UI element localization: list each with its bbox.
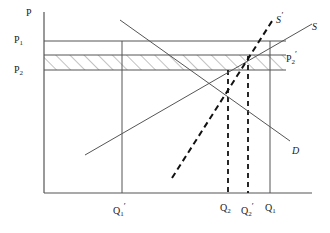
supply-demand-figure: P P1P2P2′ Q1′Q2Q2′Q1 S′SD (0, 0, 330, 233)
curves-group (85, 18, 312, 178)
subscript: 1 (20, 39, 24, 47)
quantity-label-q2: Q2 (220, 203, 231, 213)
prime-mark: ′ (281, 10, 283, 20)
quantity-label-q2-prime: Q2′ (241, 203, 254, 216)
curve-D (120, 20, 290, 141)
prime-mark: ′ (252, 201, 254, 211)
diagram-canvas (0, 0, 330, 233)
curve-S-prime (172, 18, 274, 178)
price-label-p2: P2 (14, 65, 23, 75)
subscript: 2 (248, 210, 252, 218)
quantity-label-q1-prime: Q1′ (113, 203, 126, 216)
subscript: 1 (120, 210, 124, 218)
quantity-label-q1: Q1 (265, 203, 276, 213)
axes-group (44, 12, 312, 193)
subscript: 2 (227, 207, 231, 215)
curve-label-supply: S (312, 22, 317, 32)
subscript: 2 (20, 69, 24, 77)
price-label-p2-prime: P2′ (286, 51, 297, 64)
prime-mark: ′ (295, 49, 297, 59)
price-label-p1: P1 (14, 35, 23, 45)
prime-mark: ′ (124, 201, 126, 211)
y-axis-title: P (26, 8, 32, 18)
subscript: 2 (292, 58, 296, 66)
subscript: 1 (272, 207, 276, 215)
curve-label-demand: D (292, 146, 299, 156)
curve-label-supply-shifted: S′ (276, 12, 283, 25)
